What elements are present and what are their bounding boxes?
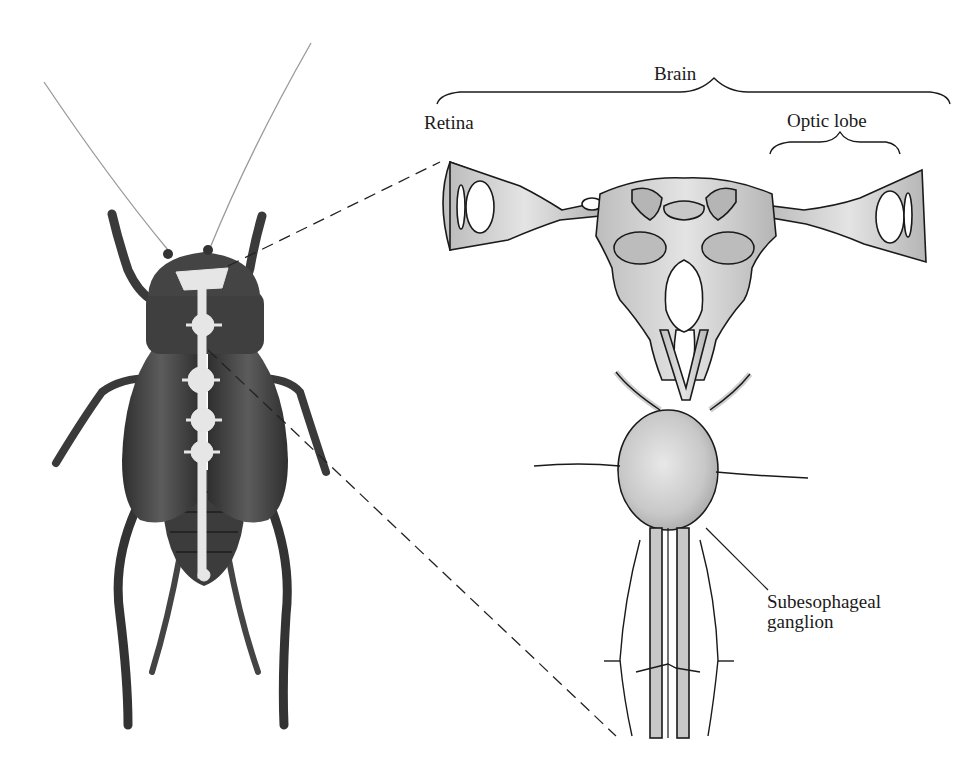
hind-leg-left [118,505,138,725]
cricket-illustration [44,43,326,725]
central-hole [665,260,702,332]
label-brain: Brain [654,64,696,84]
label-subesophageal-line1: Subesophageal [767,592,881,612]
antenna-left [44,82,168,250]
cercus-left [152,555,180,672]
front-leg-left [112,214,152,300]
label-optic-lobe: Optic lobe [787,111,867,131]
label-retina: Retina [424,113,474,133]
optic-lobe-bracket [770,132,900,154]
cercus-right [228,555,258,672]
hind-leg-right [270,505,287,725]
label-subesophageal-line2: ganglion [767,612,881,632]
nerve-cords [650,528,689,738]
label-subesophageal-ganglion: Subesophageal ganglion [767,592,881,632]
subesophageal-ganglion-shape [618,410,718,530]
subesophageal-leader-line [706,528,768,590]
